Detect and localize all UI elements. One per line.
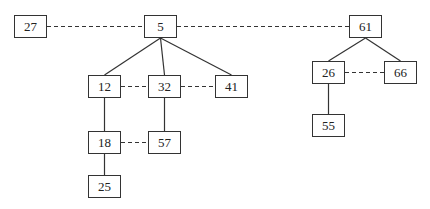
- node-61: 61: [349, 15, 382, 38]
- node-26: 26: [312, 61, 345, 84]
- tree-edge: [105, 38, 161, 75]
- node-32: 32: [148, 75, 181, 98]
- node-55: 55: [312, 114, 345, 137]
- tree-edge: [366, 38, 401, 61]
- node-66: 66: [384, 61, 417, 84]
- node-57: 57: [148, 131, 181, 154]
- heap-diagram: 27 5 61 12 32 41 26 66 55 18 57 25: [0, 0, 430, 209]
- node-25: 25: [88, 175, 121, 198]
- node-27: 27: [14, 15, 47, 38]
- tree-edge: [161, 38, 165, 75]
- node-41: 41: [215, 75, 248, 98]
- node-18: 18: [88, 131, 121, 154]
- tree-edge: [161, 38, 232, 75]
- tree-edge: [329, 38, 366, 61]
- node-12: 12: [88, 75, 121, 98]
- node-5: 5: [144, 15, 177, 38]
